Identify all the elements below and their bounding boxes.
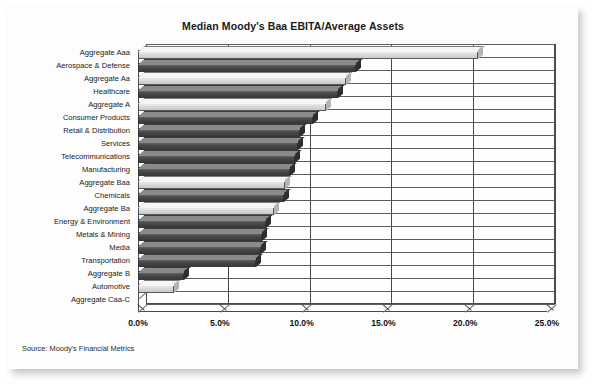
bar [138,72,354,81]
bar [138,293,146,302]
bar [138,241,269,250]
bar [138,254,264,263]
bar-top-face [138,202,280,208]
horizontal-gridline [146,44,555,45]
horizontal-gridline [146,291,555,292]
bar [138,124,308,133]
plot-area [138,44,555,312]
vertical-gridline [555,44,556,304]
bar-top-face [138,150,302,156]
category-label: Metals & Mining [76,230,130,239]
category-label: Aggregate Baa [79,178,130,187]
bar-top-face [138,124,307,130]
bar [138,189,292,198]
bar [138,163,298,172]
chart-card: Median Moody's Baa EBITA/Average Assets … [8,6,578,369]
bar-top-face [138,228,269,234]
category-label: Aggregate Aa [84,74,130,83]
value-tick-label: 20.0% [453,318,477,328]
bar [138,202,282,211]
horizontal-gridline [146,304,555,305]
category-label: Aerospace & Defense [56,61,130,70]
bar-top-face [138,137,305,143]
bar-top-face [138,163,297,169]
value-tick-label: 10.0% [289,318,313,328]
bar-top-face [138,254,262,260]
bar [138,280,182,289]
category-label: Automotive [92,282,130,291]
bar [138,46,486,55]
bar-top-face [138,59,362,65]
horizontal-gridline [146,278,555,279]
bar-top-face [138,98,333,104]
bar-top-face [138,267,190,273]
category-label: Services [101,139,130,148]
bar-top-face [138,72,352,78]
bar [138,176,293,185]
source-note: Source: Moody's Financial Metrics [22,344,134,353]
category-label: Energy & Environment [54,217,130,226]
category-label: Aggregate Aaa [80,48,130,57]
bar [138,267,192,276]
bar-top-face [138,215,272,221]
bar [138,111,321,120]
value-tick-label: 15.0% [371,318,395,328]
value-tick-label: 5.0% [210,318,230,328]
category-label: Aggregate B [88,269,130,278]
bar [138,228,270,237]
chart-title: Median Moody's Baa EBITA/Average Assets [8,20,578,32]
bar [138,150,303,159]
category-label: Transportation [81,256,130,265]
bar [138,215,274,224]
value-tick-label: 25.0% [535,318,559,328]
category-label: Aggregate A [88,100,130,109]
category-label: Media [109,243,130,252]
bar [138,98,334,107]
bar-top-face [138,189,290,195]
category-label: Telecommunications [61,152,130,161]
bar [138,137,306,146]
category-axis-labels: Aggregate AaaAerospace & DefenseAggregat… [8,44,134,312]
bar [138,85,346,94]
value-tick-label: 0.0% [128,318,148,328]
bar-top-face [138,111,320,117]
category-label: Consumer Products [63,113,130,122]
category-label: Aggregate Ba [84,204,130,213]
bar-top-face [138,46,485,52]
bar-top-face [138,85,344,91]
bar-top-face [138,176,292,182]
category-label: Chemicals [95,191,130,200]
category-label: Manufacturing [82,165,130,174]
bar-top-face [138,241,267,247]
category-label: Healthcare [93,87,130,96]
bar [138,59,364,68]
category-label: Aggregate Caa-C [71,295,130,304]
category-label: Retail & Distribution [63,126,130,135]
